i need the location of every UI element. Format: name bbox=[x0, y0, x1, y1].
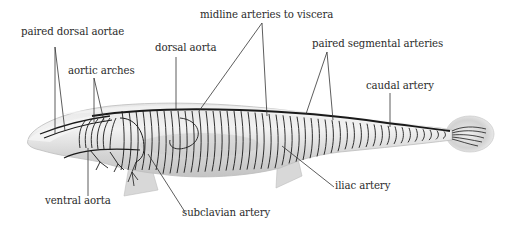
label-subclavian-artery: subclavian artery bbox=[182, 208, 270, 218]
caudal-fin bbox=[446, 116, 494, 152]
label-paired-dorsal-aortae: paired dorsal aortae bbox=[21, 27, 124, 37]
label-dorsal-aorta: dorsal aorta bbox=[155, 43, 216, 53]
label-aortic-arches: aortic arches bbox=[68, 66, 135, 76]
label-iliac-artery: iliac artery bbox=[335, 181, 390, 191]
label-midline-arteries-to-viscera: midline arteries to viscera bbox=[200, 10, 333, 20]
label-caudal-artery: caudal artery bbox=[366, 81, 434, 91]
arterial-system-diagram: paired dorsal aortae aortic arches dorsa… bbox=[0, 0, 523, 232]
label-paired-segmental-arteries: paired segmental arteries bbox=[312, 39, 443, 49]
label-ventral-aorta: ventral aorta bbox=[45, 196, 111, 206]
